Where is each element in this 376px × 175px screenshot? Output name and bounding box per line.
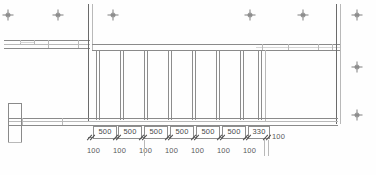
column-edge-left: [88, 4, 89, 122]
dimension-tick-1: [88, 134, 95, 141]
dimension-box-6[interactable]: 500: [222, 126, 246, 139]
grid-marker-3: [108, 10, 119, 21]
stud-6: [216, 50, 220, 120]
dimension-tick-7: [244, 134, 251, 141]
dimension-box-3[interactable]: 500: [144, 126, 168, 139]
dimension-trailing-label: 100: [272, 132, 285, 141]
right-wall-line-2: [340, 4, 341, 124]
header-beam-top: [92, 44, 340, 45]
header-tick-3: [318, 44, 319, 50]
dimension-box-4[interactable]: 500: [170, 126, 194, 139]
grid-marker-4: [245, 10, 256, 21]
lower-wall-tick-2: [62, 118, 63, 125]
header-tick-4: [332, 44, 333, 50]
stud-7: [240, 50, 244, 120]
wall-line-outer-bottom: [4, 48, 90, 49]
l-column-left: [8, 103, 9, 143]
grid-marker-1: [3, 10, 14, 21]
dimension-tick-4: [166, 134, 173, 141]
right-wall-line-1: [336, 4, 337, 124]
header-beam-mid: [256, 47, 340, 48]
extension-line-2: [264, 140, 265, 156]
grid-marker-7: [352, 62, 363, 73]
secondary-dim-2: 100: [113, 146, 126, 155]
secondary-dim-5: 100: [191, 146, 204, 155]
secondary-dim-1: 100: [87, 146, 100, 155]
secondary-dim-6: 100: [217, 146, 230, 155]
l-column-top: [8, 103, 22, 104]
l-column-right: [21, 103, 22, 143]
dimension-tick-6: [218, 134, 225, 141]
wall-seg-tick-4: [78, 40, 79, 48]
dimension-box-5[interactable]: 500: [196, 126, 220, 139]
l-column-base: [8, 142, 22, 143]
wall-seg-tick-2: [34, 40, 35, 45]
stud-1: [96, 50, 100, 120]
dimension-tick-2: [114, 134, 121, 141]
extension-line-3: [268, 140, 269, 156]
secondary-dim-3: 100: [139, 146, 152, 155]
header-tick-1: [262, 44, 263, 50]
stud-4: [168, 50, 172, 120]
lower-wall-top: [8, 118, 338, 119]
wall-seg-tick-3: [48, 40, 49, 48]
right-bay-edge: [265, 50, 266, 122]
grid-marker-8: [352, 110, 363, 121]
grid-marker-6: [352, 10, 363, 21]
stud-8: [258, 50, 262, 120]
lower-wall-mid: [8, 121, 338, 122]
cad-drawing-canvas[interactable]: 500 500 500 500 500 500 330 100 100 100 …: [0, 0, 376, 175]
extension-line-1: [144, 140, 145, 156]
secondary-dim-4: 100: [165, 146, 178, 155]
grid-marker-5: [298, 10, 309, 21]
secondary-dim-7: 100: [243, 146, 256, 155]
grid-marker-2: [53, 10, 64, 21]
wall-hatch-band: [20, 42, 34, 43]
stud-5: [192, 50, 196, 120]
stud-2: [120, 50, 124, 120]
lower-wall-tick-1: [22, 118, 23, 125]
dimension-box-2[interactable]: 500: [118, 126, 142, 139]
header-tick-2: [288, 44, 289, 50]
stud-3: [144, 50, 148, 120]
dimension-tick-5: [192, 134, 199, 141]
